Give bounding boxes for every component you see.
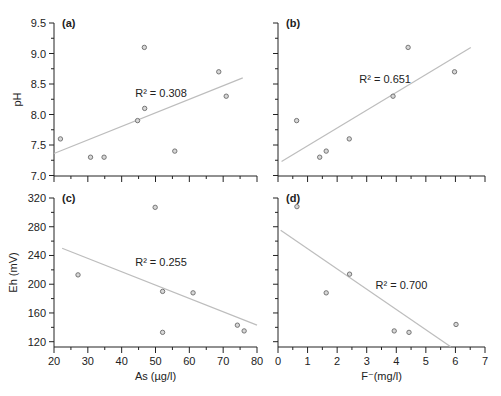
- data-point: [142, 106, 146, 110]
- y-tick-label: 320: [28, 192, 46, 204]
- data-point: [454, 322, 458, 326]
- x-tick-label: 7: [482, 355, 488, 367]
- y-tick-label: 8.5: [31, 78, 46, 90]
- y-tick-label: 160: [28, 307, 46, 319]
- x-tick-label: 5: [423, 355, 429, 367]
- data-point: [224, 94, 228, 98]
- x-axis-title: As (µg/l): [135, 370, 176, 382]
- data-point: [58, 137, 62, 141]
- panel-a: 7.07.58.08.59.09.5pH(a)R² = 0.308: [11, 17, 257, 182]
- data-point: [142, 45, 146, 49]
- data-point: [235, 323, 239, 327]
- x-tick-label: 50: [149, 355, 161, 367]
- panel-label: (c): [62, 192, 76, 204]
- data-point: [324, 291, 328, 295]
- data-point: [347, 137, 351, 141]
- regression-line: [282, 47, 471, 161]
- panel-b: (b)R² = 0.651: [273, 17, 485, 182]
- data-point: [324, 149, 328, 153]
- data-point: [317, 155, 321, 159]
- x-tick-label: 1: [305, 355, 311, 367]
- r-squared-label: R² = 0.255: [135, 256, 187, 268]
- data-point: [191, 291, 195, 295]
- x-axis-title: F⁻(mg/l): [361, 370, 402, 382]
- y-tick-label: 240: [28, 249, 46, 261]
- data-point: [160, 330, 164, 334]
- x-tick-label: 20: [48, 355, 60, 367]
- x-tick-label: 6: [452, 355, 458, 367]
- r-squared-label: R² = 0.651: [359, 73, 411, 85]
- panel-c: 12016020024028032020304050607080Eh (mV)A…: [7, 192, 263, 382]
- data-point: [407, 330, 411, 334]
- r-squared-label: R² = 0.308: [135, 87, 187, 99]
- data-point: [88, 155, 92, 159]
- panel-label: (d): [286, 192, 300, 204]
- y-tick-label: 8.0: [31, 109, 46, 121]
- data-point: [242, 329, 246, 333]
- y-axis-title: pH: [11, 92, 23, 106]
- data-point: [391, 94, 395, 98]
- x-tick-label: 4: [393, 355, 399, 367]
- y-tick-label: 7.5: [31, 139, 46, 151]
- data-point: [173, 149, 177, 153]
- x-tick-label: 3: [364, 355, 370, 367]
- data-point: [406, 45, 410, 49]
- data-point: [452, 70, 456, 74]
- figure-scatter-panels: 7.07.58.08.59.09.5pH(a)R² = 0.308 (b)R² …: [0, 0, 501, 396]
- y-tick-label: 280: [28, 221, 46, 233]
- x-tick-label: 40: [116, 355, 128, 367]
- data-point: [135, 118, 139, 122]
- x-tick-label: 60: [183, 355, 195, 367]
- data-point: [102, 155, 106, 159]
- y-tick-label: 9.0: [31, 48, 46, 60]
- x-tick-label: 70: [217, 355, 229, 367]
- y-tick-label: 9.5: [31, 17, 46, 29]
- y-tick-label: 7.0: [31, 170, 46, 182]
- x-tick-label: 0: [275, 355, 281, 367]
- data-point: [76, 273, 80, 277]
- data-point: [160, 289, 164, 293]
- panel-label: (a): [62, 17, 76, 29]
- r-squared-label: R² = 0.700: [376, 279, 428, 291]
- y-axis-title: Eh (mV): [7, 252, 19, 292]
- data-point: [153, 205, 157, 209]
- x-tick-label: 30: [82, 355, 94, 367]
- data-point: [295, 204, 299, 208]
- panel-label: (b): [286, 17, 300, 29]
- y-tick-label: 120: [28, 336, 46, 348]
- data-point: [392, 329, 396, 333]
- data-point: [294, 118, 298, 122]
- panel-d: 01234567F⁻(mg/l)(d)R² = 0.700: [273, 192, 488, 382]
- data-point: [347, 272, 351, 276]
- x-tick-label: 80: [251, 355, 263, 367]
- y-tick-label: 200: [28, 278, 46, 290]
- data-point: [217, 70, 221, 74]
- x-tick-label: 2: [334, 355, 340, 367]
